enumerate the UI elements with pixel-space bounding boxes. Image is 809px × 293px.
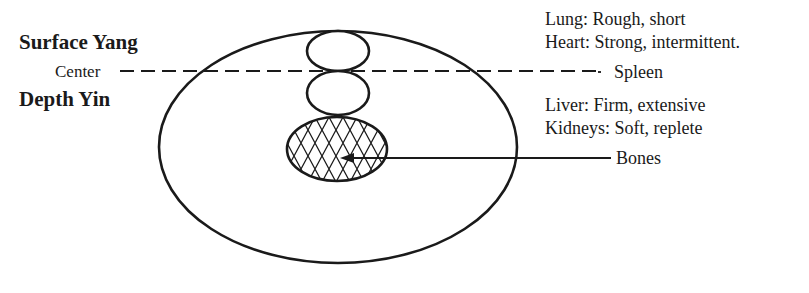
label-kidneys: Kidneys: Soft, replete bbox=[545, 119, 702, 137]
label-liver: Liver: Firm, extensive bbox=[545, 96, 705, 114]
label-spleen: Spleen bbox=[614, 63, 663, 81]
label-surface-yang: Surface Yang bbox=[19, 32, 138, 53]
lung-heart-oval bbox=[307, 31, 369, 71]
label-bones: Bones bbox=[616, 149, 661, 167]
liver-kidney-oval bbox=[307, 71, 369, 115]
label-heart: Heart: Strong, intermittent. bbox=[545, 33, 740, 51]
label-lung: Lung: Rough, short bbox=[545, 10, 686, 28]
label-center: Center bbox=[55, 63, 100, 80]
label-depth-yin: Depth Yin bbox=[19, 89, 110, 110]
